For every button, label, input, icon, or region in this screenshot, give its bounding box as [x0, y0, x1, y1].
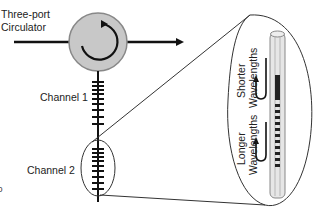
stray-mark: 0: [0, 185, 3, 194]
channel2-label: Channel 2: [27, 164, 75, 176]
longer-label-line2: Wavelengths: [247, 115, 259, 175]
output-arrow-icon: [176, 38, 184, 46]
circulator-label-line2: Circulator: [1, 21, 46, 33]
fiber-grating-diagram: Three-port Circulator Channel 1 Channel …: [0, 0, 316, 210]
shorter-label-line2: Wavelengths: [247, 48, 259, 108]
channel1-label: Channel 1: [40, 91, 88, 103]
shorter-label-line1: Shorter: [235, 63, 247, 98]
fiber-tube: [270, 31, 285, 198]
longer-label-line1: Longer: [235, 132, 247, 165]
circulator: [69, 13, 127, 71]
circulator-label-line1: Three-port: [1, 8, 50, 20]
projection-line-bottom: [100, 195, 265, 205]
